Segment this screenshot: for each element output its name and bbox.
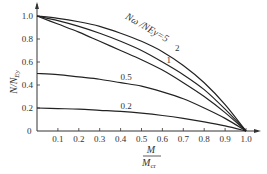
curve-label: 2 bbox=[175, 43, 180, 53]
svg-text:Mcr: Mcr bbox=[141, 157, 156, 170]
x-ticks: 0.10.20.30.40.50.60.70.80.91.0 bbox=[52, 128, 252, 144]
svg-text:N/NEy: N/NEy bbox=[8, 69, 21, 94]
x-tick-label: 0.4 bbox=[115, 134, 127, 144]
y-tick-label: 0.6 bbox=[22, 57, 34, 67]
x-tick-label: 0.7 bbox=[178, 134, 190, 144]
y-tick-label: 0.4 bbox=[22, 80, 34, 90]
x-axis-arrow bbox=[254, 129, 261, 133]
y-axis-label-main: N/N bbox=[8, 76, 19, 94]
x-tick-label: 1.0 bbox=[240, 134, 252, 144]
x-axis-label: M Mcr bbox=[141, 144, 161, 170]
y-axis-label-sub: Ey bbox=[13, 69, 21, 78]
curve-label: 1 bbox=[167, 55, 172, 65]
curve-labels: Nω /NEy=5210.50.2 bbox=[121, 10, 180, 111]
x-tick-label: 0.8 bbox=[199, 134, 211, 144]
y-axis-arrow bbox=[35, 2, 39, 9]
x-tick-label: 0.2 bbox=[73, 134, 84, 144]
x-tick-label: 0.1 bbox=[52, 134, 63, 144]
curve-0-5 bbox=[37, 74, 246, 132]
curve-label: 0.5 bbox=[121, 72, 133, 82]
curves bbox=[37, 16, 246, 131]
y-tick-label: 0.2 bbox=[22, 103, 33, 113]
curve-label: 0.2 bbox=[121, 101, 132, 111]
y-tick-label: 1.0 bbox=[22, 11, 34, 21]
x-tick-label: 0.9 bbox=[219, 134, 231, 144]
x-tick-label: 0.5 bbox=[136, 134, 148, 144]
x-axis-label-denominator-sub: cr bbox=[150, 162, 156, 170]
x-tick-label: 0.6 bbox=[157, 134, 169, 144]
origin-label: 0 bbox=[27, 126, 32, 136]
curve-label: Nω /NEy=5 bbox=[123, 10, 171, 44]
interaction-chart: 0.10.20.30.40.50.60.70.80.91.0 0.20.40.6… bbox=[0, 0, 267, 174]
y-tick-label: 0.8 bbox=[22, 34, 34, 44]
x-axis-label-numerator: M bbox=[146, 144, 156, 155]
x-tick-label: 0.3 bbox=[94, 134, 106, 144]
curve-0-2 bbox=[37, 108, 246, 131]
y-axis-label: N/NEy bbox=[8, 69, 21, 94]
